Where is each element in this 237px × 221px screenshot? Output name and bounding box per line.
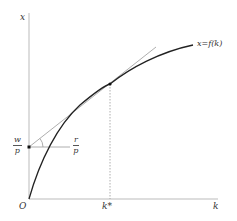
- slope-denominator: p: [73, 146, 78, 155]
- slope-angle-arc: [40, 139, 43, 148]
- origin-label: O: [19, 202, 26, 211]
- tangent-point-dot: [108, 82, 111, 85]
- diagram-svg: [0, 0, 237, 221]
- diagram-canvas: x k O k* x=f(k) w p r p: [0, 0, 237, 221]
- x-axis-label: k: [213, 202, 218, 211]
- intercept-dot: [28, 146, 31, 149]
- curve-label: x=f(k): [197, 40, 222, 48]
- y-axis-label: x: [20, 13, 25, 22]
- intercept-numerator: w: [13, 136, 22, 146]
- production-function-curve: [29, 45, 193, 199]
- k-star-label: k*: [102, 202, 112, 211]
- slope-fraction: r p: [73, 136, 79, 155]
- slope-numerator: r: [73, 136, 79, 146]
- intercept-fraction: w p: [13, 136, 22, 155]
- intercept-denominator: p: [15, 146, 20, 155]
- tangent-line: [29, 47, 156, 147]
